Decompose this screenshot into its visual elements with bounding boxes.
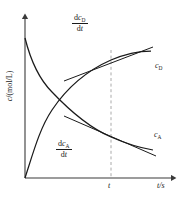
x-axis-label: t/s: [157, 182, 165, 190]
x-tick-label-t: t: [108, 182, 110, 190]
derivative-ca-den-t: t: [65, 150, 67, 159]
derivative-cd-den-t: t: [81, 24, 83, 33]
derivative-cd-denominator: dt: [72, 24, 88, 34]
chart-canvas: [0, 0, 182, 198]
y-axis-label-unit: /(mol/L): [5, 71, 14, 98]
derivative-ca-num-sub: A: [66, 143, 70, 149]
derivative-annotation-ca: dcA dt: [56, 139, 72, 160]
y-axis-label-base: c: [5, 98, 14, 102]
concentration-vs-time-chart: c/(mol/L) t/s t cD cA dcD dt dcA dt: [0, 0, 182, 198]
derivative-ca-numerator: dcA: [56, 139, 72, 150]
curve-label-cd-sub: D: [159, 65, 163, 71]
curve-label-ca: cA: [154, 131, 162, 139]
derivative-cd-num-sub: D: [82, 17, 86, 23]
derivative-annotation-cd: dcD dt: [72, 13, 88, 34]
curve-label-cd: cD: [155, 62, 163, 70]
y-axis-label: c/(mol/L): [6, 55, 14, 117]
curve-label-ca-sub: A: [158, 134, 162, 140]
curve-cd: [25, 51, 151, 178]
derivative-cd-numerator: dcD: [72, 13, 88, 24]
derivative-ca-denominator: dt: [56, 150, 72, 160]
